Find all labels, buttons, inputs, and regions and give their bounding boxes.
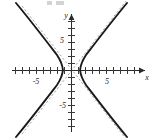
x-axis-group <box>12 67 145 74</box>
y-tick-label-positive-five: 5 <box>60 36 64 45</box>
x-axis-arrow-icon <box>139 68 145 74</box>
x-axis-label: x <box>144 73 149 82</box>
hyperbola-figure: -5 5 5 -5 y x <box>0 0 156 138</box>
y-axis-label: y <box>63 11 68 20</box>
x-tick-label-negative-five: -5 <box>33 77 40 86</box>
y-axis-arrow-icon <box>69 14 75 20</box>
hyperbola-plot: -5 5 5 -5 y x <box>0 0 156 138</box>
x-tick-label-positive-five: 5 <box>105 77 109 86</box>
asymptote-negative-slope-line <box>22 6 126 138</box>
y-tick-label-negative-five: -5 <box>59 101 66 110</box>
asymptote-positive-slope-line <box>22 1 126 134</box>
